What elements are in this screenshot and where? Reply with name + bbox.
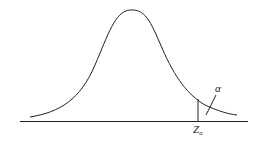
alpha-label: α (215, 82, 221, 94)
bell-curve (30, 10, 237, 117)
normal-curve-diagram: α Zα (0, 0, 263, 146)
alpha-pointer-line (206, 95, 216, 115)
critical-value-label: Zα (193, 123, 203, 136)
